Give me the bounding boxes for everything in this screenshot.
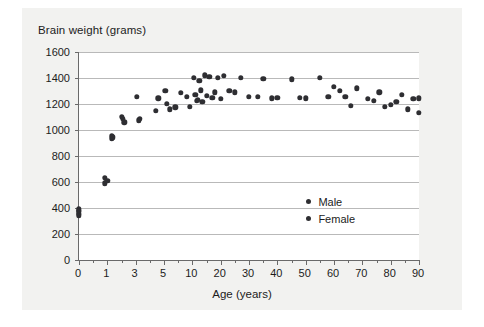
y-tick-mark xyxy=(75,234,79,235)
data-point xyxy=(191,75,196,80)
data-point xyxy=(260,76,265,81)
data-point xyxy=(371,98,376,103)
figure-page: Brain weight (grams) Age (years) Male Fe… xyxy=(0,0,484,327)
x-minor-tick-mark xyxy=(178,260,179,263)
data-point xyxy=(162,88,167,93)
data-point xyxy=(156,95,161,100)
gridline xyxy=(79,208,419,209)
x-tick-label: 10 xyxy=(185,267,197,279)
x-tick-mark xyxy=(362,260,363,265)
x-tick-label: 60 xyxy=(327,267,339,279)
data-point xyxy=(317,75,322,80)
data-point xyxy=(255,94,260,99)
data-point xyxy=(198,88,203,93)
x-tick-label: 70 xyxy=(355,267,367,279)
data-point xyxy=(405,106,410,111)
x-tick-mark xyxy=(136,260,137,265)
plot-area xyxy=(78,52,419,261)
x-tick-label: 50 xyxy=(299,267,311,279)
y-tick-label: 0 xyxy=(26,254,70,266)
x-minor-tick-mark xyxy=(235,260,236,263)
x-minor-tick-mark xyxy=(292,260,293,263)
legend-item-female: Female xyxy=(306,210,355,227)
data-point xyxy=(382,104,387,109)
data-point xyxy=(215,75,220,80)
y-tick-mark xyxy=(75,78,79,79)
data-point xyxy=(411,96,416,101)
data-point xyxy=(331,84,336,89)
data-point xyxy=(153,108,158,113)
gridline xyxy=(79,130,419,131)
x-tick-label: 40 xyxy=(270,267,282,279)
x-tick-label: 5 xyxy=(160,267,166,279)
y-tick-mark xyxy=(75,156,79,157)
data-point xyxy=(209,95,214,100)
y-tick-label: 400 xyxy=(26,202,70,214)
data-point xyxy=(343,94,348,99)
x-minor-tick-mark xyxy=(207,260,208,263)
x-tick-mark xyxy=(306,260,307,265)
x-tick-label: 80 xyxy=(384,267,396,279)
data-point xyxy=(178,90,183,95)
y-tick-label: 800 xyxy=(26,150,70,162)
x-minor-tick-mark xyxy=(122,260,123,263)
legend-label-male: Male xyxy=(318,196,342,208)
x-minor-tick-mark xyxy=(150,260,151,263)
x-tick-mark xyxy=(192,260,193,265)
x-tick-label: 20 xyxy=(214,267,226,279)
data-point xyxy=(348,103,353,108)
data-point xyxy=(354,86,359,91)
data-point xyxy=(246,94,251,99)
y-tick-mark xyxy=(75,130,79,131)
y-tick-label: 1200 xyxy=(26,98,70,110)
data-point xyxy=(377,90,382,95)
gridline xyxy=(79,78,419,79)
x-tick-mark xyxy=(107,260,108,265)
data-point xyxy=(197,78,202,83)
data-point xyxy=(388,102,393,107)
data-point xyxy=(226,88,231,93)
gridline xyxy=(79,52,419,53)
x-tick-label: 1 xyxy=(103,267,109,279)
x-axis-title: Age (years) xyxy=(0,288,484,300)
data-point xyxy=(297,95,302,100)
data-point xyxy=(184,94,189,99)
x-minor-tick-mark xyxy=(320,260,321,263)
x-tick-mark xyxy=(249,260,250,265)
x-tick-label: 90 xyxy=(412,267,424,279)
y-tick-label: 600 xyxy=(26,176,70,188)
x-tick-label: 30 xyxy=(242,267,254,279)
data-point xyxy=(232,90,237,95)
x-tick-mark xyxy=(391,260,392,265)
x-minor-tick-mark xyxy=(348,260,349,263)
x-minor-tick-mark xyxy=(263,260,264,263)
data-point xyxy=(238,75,243,80)
data-point xyxy=(365,96,370,101)
x-tick-mark xyxy=(419,260,420,265)
chart-legend: Male Female xyxy=(306,193,355,227)
y-tick-label: 200 xyxy=(26,228,70,240)
y-tick-mark xyxy=(75,182,79,183)
legend-label-female: Female xyxy=(318,213,355,225)
x-minor-tick-mark xyxy=(93,260,94,263)
data-point xyxy=(275,95,280,100)
data-point xyxy=(134,94,139,99)
data-point xyxy=(326,94,331,99)
data-point xyxy=(269,95,274,100)
data-point xyxy=(204,93,209,98)
y-tick-label: 1400 xyxy=(26,72,70,84)
data-point xyxy=(167,106,172,111)
x-tick-mark xyxy=(334,260,335,265)
x-tick-mark xyxy=(79,260,80,265)
legend-marker-male-icon xyxy=(306,199,311,204)
x-tick-label: 0 xyxy=(75,267,81,279)
y-tick-label: 1600 xyxy=(26,46,70,58)
x-minor-tick-mark xyxy=(377,260,378,263)
data-point xyxy=(337,88,342,93)
data-point xyxy=(303,95,308,100)
y-tick-mark xyxy=(75,52,79,53)
data-point xyxy=(212,90,217,95)
x-minor-tick-mark xyxy=(405,260,406,263)
y-tick-label: 1000 xyxy=(26,124,70,136)
data-point xyxy=(137,116,142,121)
